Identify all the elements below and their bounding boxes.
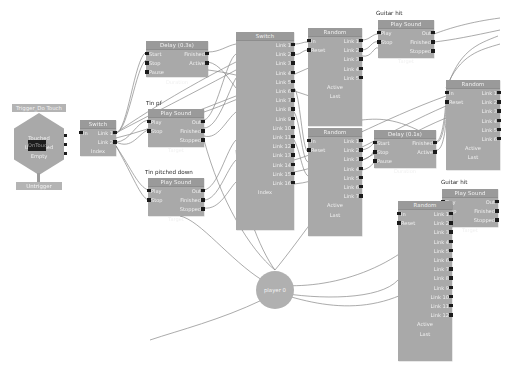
port-pin-icon[interactable] bbox=[205, 61, 208, 64]
port-pin-icon[interactable] bbox=[445, 91, 448, 94]
node-output-port[interactable]: Link 3 bbox=[434, 230, 449, 235]
node-output-port[interactable]: Link 8 bbox=[434, 276, 449, 281]
port-pin-icon[interactable] bbox=[359, 57, 362, 60]
node-input-port[interactable]: In bbox=[449, 91, 454, 96]
node-output-port[interactable]: Link 9 bbox=[276, 117, 291, 122]
graph-node[interactable]: Play SoundPlayStopOutFinishedStoppedTarg… bbox=[148, 178, 204, 216]
node-output-port[interactable]: Link 6 bbox=[482, 137, 497, 142]
node-output-port[interactable]: Active bbox=[189, 61, 205, 66]
graph-node[interactable]: Play SoundPlayStopOutFinishedStoppedTarg… bbox=[148, 109, 204, 147]
port-pin-icon[interactable] bbox=[449, 286, 452, 289]
port-pin-icon[interactable] bbox=[291, 172, 294, 175]
port-pin-icon[interactable] bbox=[291, 153, 294, 156]
trigger-pin-untouched[interactable] bbox=[64, 143, 67, 146]
port-pin-icon[interactable] bbox=[291, 43, 294, 46]
node-input-port[interactable]: In bbox=[311, 39, 316, 44]
port-pin-icon[interactable] bbox=[397, 221, 400, 224]
node-output-port[interactable]: Link 15 bbox=[272, 172, 291, 177]
node-input-port[interactable]: Stop bbox=[151, 129, 163, 134]
trigger-pin-touched[interactable] bbox=[64, 134, 67, 137]
port-pin-icon[interactable] bbox=[201, 129, 204, 132]
port-pin-icon[interactable] bbox=[359, 67, 362, 70]
node-input-port[interactable]: Reset bbox=[311, 48, 325, 53]
port-pin-icon[interactable] bbox=[431, 49, 434, 52]
port-pin-icon[interactable] bbox=[201, 198, 204, 201]
port-pin-icon[interactable] bbox=[359, 148, 362, 151]
graph-node[interactable]: RandomInResetLink 1Link 2Link 3Link 4Lin… bbox=[398, 201, 452, 361]
port-pin-icon[interactable] bbox=[359, 194, 362, 197]
port-pin-icon[interactable] bbox=[359, 176, 362, 179]
trigger-pin-empty[interactable] bbox=[64, 152, 67, 155]
node-output-port[interactable]: Link 12 bbox=[430, 313, 449, 318]
node-output-port[interactable]: Link 4 bbox=[344, 167, 359, 172]
port-pin-icon[interactable] bbox=[307, 148, 310, 151]
port-pin-icon[interactable] bbox=[201, 120, 204, 123]
port-pin-icon[interactable] bbox=[373, 141, 376, 144]
node-output-port[interactable]: Link 5 bbox=[482, 128, 497, 133]
port-pin-icon[interactable] bbox=[147, 198, 150, 201]
port-pin-icon[interactable] bbox=[397, 212, 400, 215]
port-pin-icon[interactable] bbox=[373, 150, 376, 153]
port-pin-icon[interactable] bbox=[445, 100, 448, 103]
node-input-port[interactable]: In bbox=[83, 131, 88, 136]
node-output-port[interactable]: Link 3 bbox=[344, 157, 359, 162]
node-output-port[interactable]: Stopped bbox=[410, 49, 431, 54]
port-pin-icon[interactable] bbox=[497, 91, 500, 94]
node-output-port[interactable]: Link 9 bbox=[434, 286, 449, 291]
node-output-port[interactable]: Link 5 bbox=[344, 176, 359, 181]
trigger-hex-node[interactable]: Touched UnTouched Empty OnTouch bbox=[14, 113, 64, 175]
port-pin-icon[interactable] bbox=[449, 304, 452, 307]
node-input-port[interactable]: Play bbox=[381, 31, 392, 36]
node-input-port[interactable]: In bbox=[401, 212, 406, 217]
port-pin-icon[interactable] bbox=[113, 140, 116, 143]
node-output-port[interactable]: Link 11 bbox=[430, 304, 449, 309]
node-output-port[interactable]: Link 2 bbox=[344, 48, 359, 53]
port-pin-icon[interactable] bbox=[495, 209, 498, 212]
node-output-port[interactable]: Link 5 bbox=[344, 76, 359, 81]
trigger-bottom-tag[interactable]: Untrigger bbox=[16, 182, 62, 190]
node-output-port[interactable]: Active bbox=[417, 150, 433, 155]
port-pin-icon[interactable] bbox=[433, 150, 436, 153]
node-input-port[interactable]: Start bbox=[149, 52, 161, 57]
port-pin-icon[interactable] bbox=[431, 40, 434, 43]
node-output-port[interactable]: Link 3 bbox=[276, 61, 291, 66]
port-pin-icon[interactable] bbox=[495, 218, 498, 221]
port-pin-icon[interactable] bbox=[291, 71, 294, 74]
node-output-port[interactable]: Out bbox=[486, 200, 495, 205]
graph-node[interactable]: Play SoundPlayStopOutFinishedStoppedTarg… bbox=[378, 20, 434, 58]
port-pin-icon[interactable] bbox=[449, 267, 452, 270]
node-output-port[interactable]: Link 4 bbox=[276, 71, 291, 76]
node-output-port[interactable]: Finished bbox=[180, 129, 201, 134]
port-pin-icon[interactable] bbox=[307, 139, 310, 142]
port-pin-icon[interactable] bbox=[497, 128, 500, 131]
port-pin-icon[interactable] bbox=[497, 100, 500, 103]
port-pin-icon[interactable] bbox=[497, 109, 500, 112]
node-output-port[interactable]: Link 3 bbox=[482, 109, 497, 114]
node-input-port[interactable]: Play bbox=[151, 189, 162, 194]
node-output-port[interactable]: Stopped bbox=[474, 218, 495, 223]
graph-node[interactable]: SwitchLink 1Link 2Link 3Link 4Link 5Link… bbox=[236, 32, 294, 230]
port-pin-icon[interactable] bbox=[373, 159, 376, 162]
port-pin-icon[interactable] bbox=[449, 276, 452, 279]
node-output-port[interactable]: Link 2 bbox=[344, 148, 359, 153]
port-pin-icon[interactable] bbox=[431, 31, 434, 34]
port-pin-icon[interactable] bbox=[201, 207, 204, 210]
port-pin-icon[interactable] bbox=[449, 295, 452, 298]
node-input-port[interactable]: Stop bbox=[381, 40, 393, 45]
port-pin-icon[interactable] bbox=[291, 61, 294, 64]
node-output-port[interactable]: Stopped bbox=[180, 138, 201, 143]
port-pin-icon[interactable] bbox=[291, 135, 294, 138]
graph-node[interactable]: SwitchInLink 1Link 2Index bbox=[80, 120, 116, 156]
node-output-port[interactable]: Link 8 bbox=[276, 107, 291, 112]
node-output-port[interactable]: Link 1 bbox=[276, 43, 291, 48]
port-pin-icon[interactable] bbox=[449, 230, 452, 233]
node-input-port[interactable]: Reset bbox=[401, 221, 415, 226]
port-pin-icon[interactable] bbox=[359, 76, 362, 79]
node-output-port[interactable]: Link 1 bbox=[482, 91, 497, 96]
node-input-port[interactable]: Reset bbox=[449, 100, 463, 105]
port-pin-icon[interactable] bbox=[449, 313, 452, 316]
node-output-port[interactable]: Link 14 bbox=[272, 163, 291, 168]
port-pin-icon[interactable] bbox=[291, 52, 294, 55]
node-output-port[interactable]: Link 3 bbox=[344, 57, 359, 62]
graph-node[interactable]: Delay (0.1s)StartStopPauseFinishedActive… bbox=[374, 130, 436, 168]
